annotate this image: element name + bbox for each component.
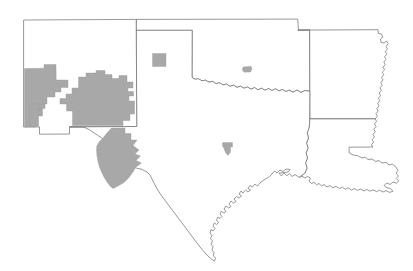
highlight-county-southern-oklahoma: [242, 66, 252, 72]
state-outline-louisiana: [299, 119, 399, 192]
map-canvas: [0, 0, 413, 271]
state-outline-arkansas: [298, 30, 388, 119]
map-container: [0, 0, 413, 271]
highlight-county-texas-panhandle: [153, 54, 167, 67]
